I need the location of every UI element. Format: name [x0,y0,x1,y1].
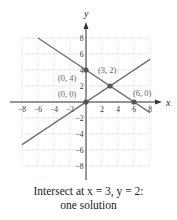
caption-line-1: Intersect at x = 3, y = 2: [0,185,177,198]
x-axis-label: x [165,97,171,108]
x-tick-label: −8 [18,105,26,114]
y-tick-label: −4 [76,130,84,139]
point-label: (0, 4) [58,73,77,83]
caption-line-2: one solution [0,199,177,212]
y-axis-arrow-icon [84,22,89,29]
y-tick-label: 8 [80,34,84,43]
data-point-marker [131,99,136,104]
point-label: (0, 0) [58,89,77,99]
point-label: (6, 0) [133,88,152,98]
data-point-marker [83,99,88,104]
x-tick-label: 2 [100,105,104,114]
y-tick-label: −2 [76,114,84,123]
x-axis-arrow-icon [155,100,162,105]
x-tick-label: 4 [116,105,120,114]
x-tick-label: 8 [148,105,152,114]
data-point-marker [107,83,112,88]
x-tick-label: −4 [50,105,58,114]
y-tick-label: −8 [76,162,84,171]
x-tick-label: 6 [132,105,136,114]
y-tick-label: 2 [80,82,84,91]
y-axis-label: y [83,8,89,19]
x-tick-label: −6 [34,105,42,114]
y-tick-label: 6 [80,50,84,59]
point-label: (3, 2) [98,65,117,75]
data-point-marker [83,67,88,72]
y-tick-label: −6 [76,146,84,155]
